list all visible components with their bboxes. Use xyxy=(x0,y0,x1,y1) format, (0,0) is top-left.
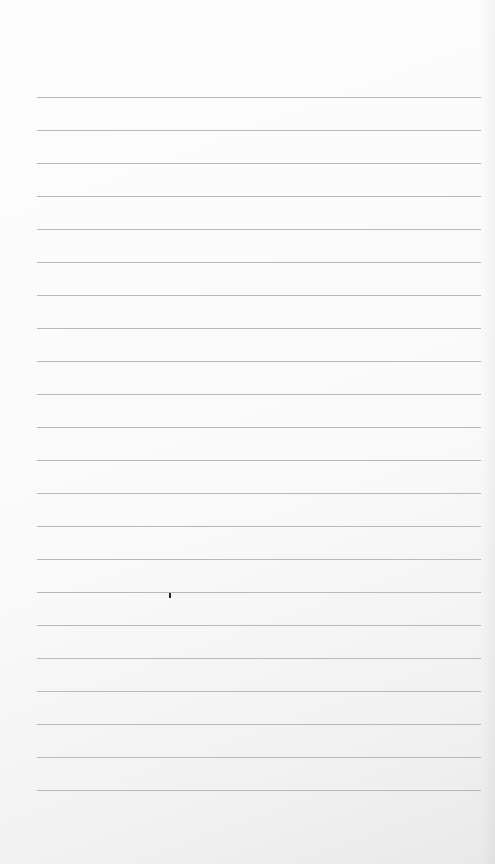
ruled-line xyxy=(37,427,481,428)
paper-edge-shadow xyxy=(481,0,495,864)
ruled-line xyxy=(37,295,481,296)
ruled-line xyxy=(37,625,481,626)
ruled-line xyxy=(37,229,481,230)
ruled-line xyxy=(37,526,481,527)
ruled-line xyxy=(37,460,481,461)
ruled-line xyxy=(37,691,481,692)
lined-paper-sheet xyxy=(0,0,495,864)
ruled-line xyxy=(37,493,481,494)
ruled-line xyxy=(37,262,481,263)
ruled-line xyxy=(37,790,481,791)
ruled-line xyxy=(37,724,481,725)
ruled-line xyxy=(37,559,481,560)
ruled-line xyxy=(37,328,481,329)
ruled-line xyxy=(37,592,481,593)
pen-mark xyxy=(169,593,171,598)
ruled-line xyxy=(37,757,481,758)
ruled-line xyxy=(37,658,481,659)
ruled-line xyxy=(37,130,481,131)
ruled-line xyxy=(37,361,481,362)
ruled-line xyxy=(37,97,481,98)
ruled-line xyxy=(37,196,481,197)
ruled-line xyxy=(37,394,481,395)
ruled-line xyxy=(37,163,481,164)
